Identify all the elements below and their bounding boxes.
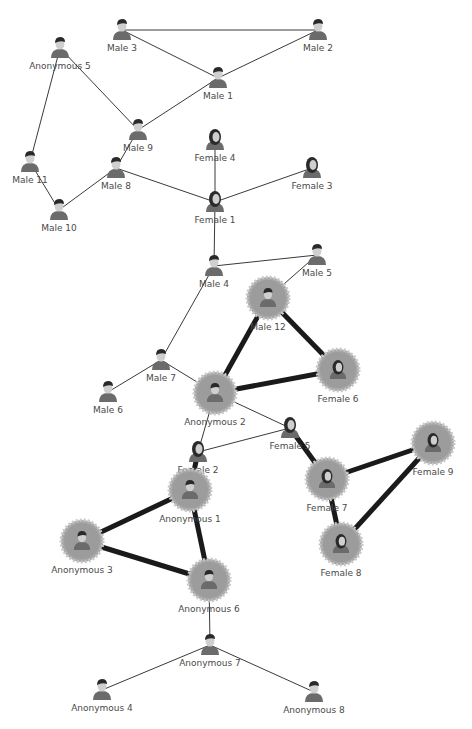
- node-male5[interactable]: Male 5: [302, 244, 332, 278]
- male-user-icon: [21, 151, 39, 172]
- node-male3[interactable]: Male 3: [107, 19, 137, 53]
- node-female4[interactable]: Female 4: [194, 129, 235, 163]
- node-male1[interactable]: Male 1: [203, 67, 233, 101]
- female-user-icon: [189, 441, 207, 462]
- male-user-icon: [308, 244, 326, 265]
- node-male8[interactable]: Male 8: [101, 157, 131, 191]
- node-male10[interactable]: Male 10: [41, 199, 77, 233]
- node-label: Female 8: [320, 568, 361, 578]
- node-label: Female 4: [194, 153, 235, 163]
- node-label: Anonymous 2: [184, 417, 246, 427]
- male-user-icon: [99, 381, 117, 402]
- node-label: Male 10: [41, 223, 77, 233]
- node-female1[interactable]: Female 1: [194, 191, 235, 225]
- male-user-icon: [129, 119, 147, 140]
- node-label: Female 9: [412, 467, 453, 477]
- node-label: Male 6: [93, 405, 123, 415]
- node-male9[interactable]: Male 9: [123, 119, 153, 153]
- male-user-icon: [152, 349, 170, 370]
- edge-male3-male1: [122, 30, 218, 78]
- node-female5[interactable]: Female 5: [269, 417, 310, 451]
- node-female9[interactable]: Female 9: [412, 422, 454, 477]
- node-female3[interactable]: Female 3: [291, 157, 332, 191]
- node-label: Male 2: [303, 43, 333, 53]
- edge-layer: [30, 30, 433, 692]
- node-label: Anonymous 3: [51, 565, 113, 575]
- male-user-icon: [50, 199, 68, 220]
- male-user-icon: [305, 681, 323, 702]
- edge-male1-male9: [138, 78, 218, 130]
- node-anon7[interactable]: Anonymous 7: [179, 634, 241, 668]
- node-label: Male 8: [101, 181, 131, 191]
- node-label: Male 1: [203, 91, 233, 101]
- edge-male4-male5: [214, 255, 317, 266]
- node-layer: Male 3Male 2Anonymous 5Male 1Male 9Femal…: [12, 19, 454, 715]
- node-anon1[interactable]: Anonymous 1: [159, 469, 221, 524]
- node-anon8[interactable]: Anonymous 8: [283, 681, 345, 715]
- node-label: Female 1: [194, 215, 235, 225]
- female-user-icon: [303, 157, 321, 178]
- node-male12[interactable]: Male 12: [247, 277, 289, 332]
- node-label: Anonymous 5: [29, 61, 91, 71]
- node-label: Anonymous 4: [71, 703, 133, 713]
- node-label: Male 9: [123, 143, 153, 153]
- node-female6[interactable]: Female 6: [317, 349, 359, 404]
- node-female2[interactable]: Female 2: [177, 441, 218, 475]
- social-network-graph: Male 3Male 2Anonymous 5Male 1Male 9Femal…: [0, 0, 472, 729]
- node-label: Female 3: [291, 181, 332, 191]
- female-user-icon: [281, 417, 299, 438]
- node-label: Male 11: [12, 175, 48, 185]
- node-label: Female 7: [306, 503, 347, 513]
- edge-anon7-anon8: [210, 645, 314, 692]
- node-label: Anonymous 8: [283, 705, 345, 715]
- female-user-icon: [206, 191, 224, 212]
- node-label: Male 5: [302, 268, 332, 278]
- node-label: Male 4: [199, 279, 229, 289]
- node-label: Male 3: [107, 43, 137, 53]
- node-label: Female 5: [269, 441, 310, 451]
- node-label: Anonymous 7: [179, 658, 241, 668]
- node-label: Anonymous 1: [159, 514, 221, 524]
- male-user-icon: [209, 67, 227, 88]
- male-user-icon: [51, 37, 69, 58]
- node-label: Anonymous 6: [178, 604, 240, 614]
- female-user-icon: [206, 129, 224, 150]
- male-user-icon: [201, 634, 219, 655]
- male-user-icon: [93, 679, 111, 700]
- node-male4[interactable]: Male 4: [199, 255, 229, 289]
- node-label: Male 12: [250, 322, 286, 332]
- node-anon6[interactable]: Anonymous 6: [178, 559, 240, 614]
- edge-male2-male1: [218, 30, 318, 78]
- node-anon4[interactable]: Anonymous 4: [71, 679, 133, 713]
- node-female7[interactable]: Female 7: [306, 458, 348, 513]
- male-user-icon: [107, 157, 125, 178]
- node-anon5[interactable]: Anonymous 5: [29, 37, 91, 71]
- node-male11[interactable]: Male 11: [12, 151, 48, 185]
- node-label: Female 6: [317, 394, 358, 404]
- node-label: Male 7: [146, 373, 176, 383]
- node-female8[interactable]: Female 8: [320, 523, 362, 578]
- node-male2[interactable]: Male 2: [303, 19, 333, 53]
